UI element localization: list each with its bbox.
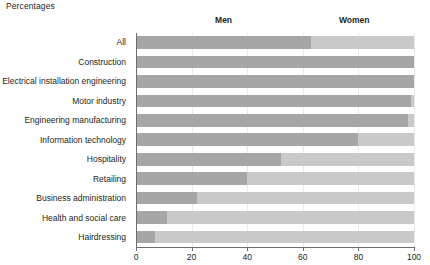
bar-segment-women xyxy=(136,75,414,88)
bar-segment-women xyxy=(136,36,414,49)
x-axis-tick-label: 40 xyxy=(242,252,251,262)
bar-segment-men xyxy=(136,114,408,127)
category-label-text: Business administration xyxy=(36,194,126,203)
bar-segment-women xyxy=(136,133,414,146)
category-label: Information technology xyxy=(0,130,131,149)
category-label-text: Hairdressing xyxy=(78,233,126,242)
plot-area xyxy=(136,33,414,247)
x-axis-tick xyxy=(358,247,359,251)
x-axis-tick-label: 0 xyxy=(134,252,139,262)
category-label-text: Information technology xyxy=(40,136,126,145)
category-label-text: Engineering manufacturing xyxy=(24,116,126,125)
bar-row xyxy=(136,33,414,52)
category-label-text: All xyxy=(117,38,126,47)
x-axis-tick-label: 20 xyxy=(187,252,196,262)
bar-segment-women xyxy=(136,153,414,166)
bar-segment-women xyxy=(136,172,414,185)
category-label: Electrical installation engineering xyxy=(0,72,131,91)
bar-row xyxy=(136,189,414,208)
category-label-text: Construction xyxy=(78,58,126,67)
bar-row xyxy=(136,130,414,149)
bar-segment-women xyxy=(136,114,414,127)
bar-row xyxy=(136,208,414,227)
bar-row xyxy=(136,111,414,130)
chart-container: Percentages Men Women AllConstructionEle… xyxy=(0,0,430,265)
bar-segment-men xyxy=(136,36,311,49)
x-axis-tick xyxy=(136,247,137,251)
category-label-text: Retailing xyxy=(93,175,126,184)
bar-segment-men xyxy=(136,56,414,69)
bar-row xyxy=(136,91,414,110)
category-label: Hospitality xyxy=(0,150,131,169)
bar-row xyxy=(136,228,414,247)
bar-segment-women xyxy=(136,231,414,244)
gridline xyxy=(414,33,415,247)
bar-segment-men xyxy=(136,192,197,205)
category-label: Motor industry xyxy=(0,91,131,110)
x-axis-tick xyxy=(192,247,193,251)
x-axis-tick xyxy=(247,247,248,251)
x-axis-tick-label: 100 xyxy=(407,252,421,262)
category-label: Business administration xyxy=(0,189,131,208)
bar-segment-men xyxy=(136,95,411,108)
x-axis-tick xyxy=(414,247,415,251)
legend: Men Women xyxy=(136,15,414,27)
legend-label-men: Men xyxy=(215,15,232,25)
category-label-text: Motor industry xyxy=(72,97,126,106)
bar-segment-men xyxy=(136,75,414,88)
category-label: Retailing xyxy=(0,169,131,188)
bar-segment-men xyxy=(136,231,155,244)
x-axis-tick xyxy=(303,247,304,251)
x-axis-tick-label: 60 xyxy=(298,252,307,262)
bar-segment-women xyxy=(136,95,414,108)
bar-segment-men xyxy=(136,153,281,166)
y-axis-line xyxy=(136,33,137,248)
bar-segment-men xyxy=(136,211,167,224)
bar-row xyxy=(136,169,414,188)
category-label-text: Hospitality xyxy=(87,155,126,164)
legend-label-women: Women xyxy=(339,15,370,25)
category-label-text: Health and social care xyxy=(42,214,126,223)
x-axis-line xyxy=(136,247,415,248)
category-axis-labels: AllConstructionElectrical installation e… xyxy=(0,33,131,247)
bar-row xyxy=(136,72,414,91)
category-label: Hairdressing xyxy=(0,228,131,247)
bar-row xyxy=(136,52,414,71)
category-label: Health and social care xyxy=(0,208,131,227)
bar-segment-women xyxy=(136,192,414,205)
bar-segment-men xyxy=(136,172,247,185)
bar-row xyxy=(136,150,414,169)
category-label: All xyxy=(0,33,131,52)
category-label: Construction xyxy=(0,52,131,71)
bar-segment-women xyxy=(136,56,414,69)
category-label-text: Electrical installation engineering xyxy=(2,77,126,86)
chart-caption: Percentages xyxy=(6,1,55,11)
x-axis-tick-label: 80 xyxy=(354,252,363,262)
bar-segment-women xyxy=(136,211,414,224)
bar-segment-men xyxy=(136,133,358,146)
bar-rows xyxy=(136,33,414,247)
category-label: Engineering manufacturing xyxy=(0,111,131,130)
